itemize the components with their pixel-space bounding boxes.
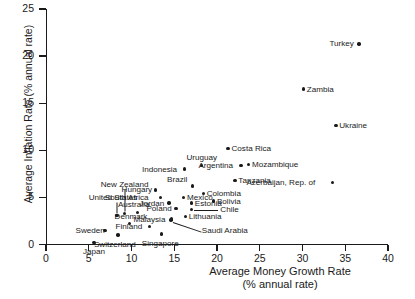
x-tick-label: 15: [154, 252, 194, 264]
point-label: Japan: [83, 247, 105, 256]
data-point[interactable]: [191, 184, 194, 187]
point-label: Singapore: [142, 239, 179, 248]
point-label: Turkey: [329, 39, 353, 48]
y-tick: [39, 55, 46, 56]
data-point[interactable]: [302, 87, 305, 90]
data-point[interactable]: [183, 167, 186, 170]
point-label: Sweden: [75, 226, 104, 235]
y-tick: [39, 8, 46, 9]
point-label: Finland: [116, 222, 143, 231]
data-point[interactable]: [334, 124, 337, 127]
data-point[interactable]: [92, 241, 95, 244]
data-point[interactable]: [190, 201, 193, 204]
y-tick-label: 20: [8, 49, 34, 61]
point-label: Saudi Arabia: [202, 226, 248, 235]
x-tick-label: 25: [240, 252, 280, 264]
y-tick-label: 0: [8, 238, 34, 250]
data-point[interactable]: [148, 225, 151, 228]
data-point[interactable]: [182, 196, 185, 199]
point-label: United States: [89, 193, 138, 202]
data-point[interactable]: [160, 232, 163, 235]
point-label: Lithuania: [189, 212, 222, 221]
y-tick-label: 10: [8, 143, 34, 155]
x-tick: [259, 245, 260, 251]
data-point[interactable]: [239, 164, 242, 167]
data-point[interactable]: [331, 181, 334, 184]
label-leader-line: [194, 210, 218, 211]
x-axis-title: Average Money Growth Rate (% annual rate…: [150, 265, 410, 291]
point-label: Costa Rica: [232, 144, 272, 153]
x-tick: [216, 245, 217, 251]
x-tick-label: 35: [325, 252, 365, 264]
point-label: New Zealand: [101, 180, 149, 189]
x-axis-title-line1: Average Money Growth Rate: [150, 265, 410, 278]
x-tick-label: 30: [283, 252, 323, 264]
data-point[interactable]: [233, 179, 236, 182]
point-label: Azerbaijan, Rep. of: [246, 178, 315, 187]
data-point[interactable]: [247, 163, 250, 166]
x-tick: [302, 245, 303, 251]
scatter-chart: Average Inflation Rate (% annual rate) A…: [0, 0, 415, 299]
x-tick: [345, 245, 346, 251]
x-tick: [387, 245, 388, 251]
data-point[interactable]: [226, 147, 229, 150]
data-point[interactable]: [169, 218, 172, 221]
x-tick-label: 10: [112, 252, 152, 264]
point-label: Denmark: [115, 212, 148, 221]
data-point[interactable]: [154, 188, 157, 191]
data-point[interactable]: [174, 207, 177, 210]
x-axis-title-line2: (% annual rate): [150, 278, 410, 291]
point-label: Estonia: [195, 199, 222, 208]
data-point[interactable]: [116, 233, 119, 236]
y-axis-line: [46, 9, 47, 245]
y-tick: [39, 197, 46, 198]
x-tick-label: 20: [197, 252, 237, 264]
point-label: Brazil: [167, 175, 187, 184]
data-point[interactable]: [357, 42, 360, 45]
point-label: Chile: [220, 205, 238, 214]
y-tick-label: 15: [8, 96, 34, 108]
data-point[interactable]: [184, 215, 187, 218]
x-tick-label: 40: [368, 252, 408, 264]
x-tick: [45, 245, 46, 251]
point-label: Poland: [146, 204, 171, 213]
point-label: Mozambique: [252, 160, 298, 169]
point-label: Zambia: [307, 85, 334, 94]
point-label: Uruguay: [186, 153, 217, 162]
y-tick: [39, 103, 46, 104]
point-label: Ukraine: [339, 121, 367, 130]
y-tick-label: 5: [8, 190, 34, 202]
y-tick: [39, 150, 46, 151]
label-leader-line: [173, 222, 201, 232]
point-label: Indonesia: [142, 165, 177, 174]
y-tick-label: 25: [8, 2, 34, 14]
x-tick-label: 0: [26, 252, 66, 264]
